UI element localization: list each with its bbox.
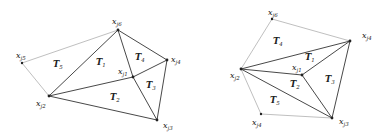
vertex-label-center: xj1 [292,63,302,74]
vertex-bottom-right [156,119,159,122]
triangle-label-t5: T5 [53,59,63,70]
vertex-bottom-left [260,113,262,115]
edge-top-right [118,30,167,60]
edge-bottom-right-left-bottom [49,96,157,120]
edge-center-right [133,60,167,77]
vertex-top [117,29,120,32]
vertex-label-top: xj6 [268,8,278,19]
vertex-top [271,18,273,20]
triangle-label-t5: T5 [270,95,280,106]
left-figure: xj1 xj6 xj4 xj3 xj2 xj5 T1 T2 T3 T4 T5 [16,17,181,132]
edge-bottom-left-bottom-right [261,114,332,118]
triangle-label-t4: T4 [135,52,145,63]
vertex-right [349,40,352,43]
vertex-left [240,68,243,71]
vertex-label-bottom-right: xj3 [163,121,173,132]
triangle-label-t2: T2 [110,92,120,103]
vertex-label-left: xj2 [230,71,240,82]
edge-center-left-bottom [49,77,133,96]
vertex-far-left [21,62,23,64]
edge-left-bottom-top [49,30,118,96]
edge-top-right [272,19,350,41]
edge-right-bottom-right [157,60,167,120]
triangle-label-t2: T2 [290,79,300,90]
edge-far-left-top [22,30,118,63]
vertex-label-bottom-left: xj4 [252,118,262,129]
edge-far-left-left-bottom [22,63,49,96]
vertex-label-left-bottom: xj2 [36,99,46,110]
edge-top-left [241,19,272,69]
edge-left-bottom-right [241,69,332,118]
vertex-label-far-left: xj5 [16,51,26,62]
vertex-label-center: xj1 [118,67,128,78]
edge-left-bottom-left [241,69,261,114]
triangle-label-t1: T1 [96,57,106,68]
vertex-right [166,59,169,62]
diagram-canvas: xj1 xj6 xj4 xj3 xj2 xj5 T1 T2 T3 T4 T5 x… [0,0,386,137]
vertex-label-top: xj6 [112,17,122,28]
triangle-label-t4: T4 [273,36,283,47]
vertex-bottom-right [331,117,334,120]
vertex-left-bottom [48,95,51,98]
right-figure: xj1 xj6 xj4 xj3 xj4 xj2 T1 T2 T3 T4 T5 [230,8,372,129]
vertex-center [301,74,304,77]
triangle-label-t3: T3 [146,80,156,91]
vertex-label-bottom-right: xj3 [339,117,349,128]
vertex-label-right: xj4 [362,31,372,42]
vertex-label-right: xj4 [171,55,181,66]
vertex-center [132,76,135,79]
edge-center-bottom-right [133,77,157,120]
triangle-label-t3: T3 [325,74,335,85]
triangle-label-t1: T1 [305,52,315,63]
